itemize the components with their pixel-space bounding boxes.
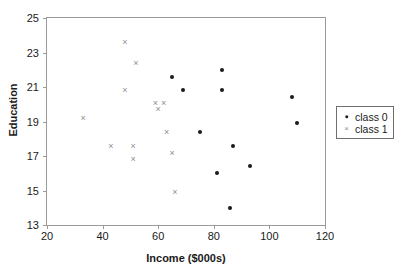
x-axis-tick xyxy=(325,225,326,229)
plot-area: 1315171921232520406080100120 xyxy=(46,17,326,226)
dot-marker-icon xyxy=(341,111,352,122)
legend-item[interactable]: class 0 xyxy=(341,111,388,122)
data-point xyxy=(169,149,176,156)
y-axis-tick xyxy=(43,156,47,157)
y-axis-tick xyxy=(43,87,47,88)
y-axis-tick-label: 23 xyxy=(17,47,39,59)
y-axis-tick-label: 17 xyxy=(17,150,39,162)
data-point xyxy=(130,142,137,149)
x-axis-title: Income ($000s) xyxy=(46,252,326,264)
x-axis-tick-label: 60 xyxy=(152,230,164,242)
data-point xyxy=(152,99,159,106)
x-axis-tick xyxy=(47,225,48,229)
cross-marker-icon: × xyxy=(341,123,352,134)
y-axis-tick-label: 13 xyxy=(17,219,39,231)
x-axis-tick-label: 80 xyxy=(208,230,220,242)
legend-item-label: class 1 xyxy=(355,123,388,135)
y-axis-tick xyxy=(43,18,47,19)
data-point xyxy=(290,95,294,99)
scatter-chart-figure: 1315171921232520406080100120 Income ($00… xyxy=(0,0,401,278)
y-axis-title: Education xyxy=(7,65,19,155)
data-point xyxy=(220,68,224,72)
x-axis-tick-label: 40 xyxy=(96,230,108,242)
x-axis-tick xyxy=(214,225,215,229)
x-axis-tick-label: 120 xyxy=(316,230,334,242)
y-axis-tick-label: 15 xyxy=(17,185,39,197)
data-point xyxy=(132,59,139,66)
data-point xyxy=(121,39,128,46)
data-point xyxy=(155,106,162,113)
data-point xyxy=(80,115,87,122)
data-point xyxy=(231,144,235,148)
x-axis-tick xyxy=(103,225,104,229)
data-point xyxy=(181,88,185,92)
data-point xyxy=(220,88,224,92)
data-point xyxy=(215,171,219,175)
x-axis-tick xyxy=(158,225,159,229)
data-point xyxy=(163,128,170,135)
data-point xyxy=(228,206,232,210)
data-point xyxy=(248,164,252,168)
chart-legend: class 0×class 1 xyxy=(336,106,394,139)
legend-item-label: class 0 xyxy=(355,111,388,123)
data-point xyxy=(170,75,174,79)
y-axis-tick xyxy=(43,191,47,192)
data-point xyxy=(107,142,114,149)
data-point xyxy=(198,130,202,134)
x-axis-tick xyxy=(269,225,270,229)
y-axis-tick xyxy=(43,122,47,123)
data-point xyxy=(171,189,178,196)
y-axis-tick-label: 25 xyxy=(17,12,39,24)
y-axis-tick-label: 19 xyxy=(17,116,39,128)
legend-item[interactable]: ×class 1 xyxy=(341,123,388,134)
data-point xyxy=(295,121,299,125)
y-axis-tick-label: 21 xyxy=(17,81,39,93)
x-axis-tick-label: 100 xyxy=(260,230,278,242)
y-axis-tick xyxy=(43,53,47,54)
data-point xyxy=(130,156,137,163)
x-axis-tick-label: 20 xyxy=(41,230,53,242)
data-point xyxy=(160,99,167,106)
data-point xyxy=(121,87,128,94)
